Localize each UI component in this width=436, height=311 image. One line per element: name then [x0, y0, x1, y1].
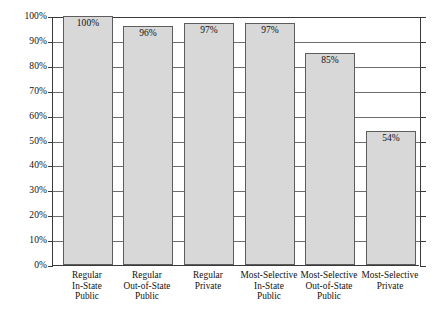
ytick-mark-20 [48, 216, 53, 217]
xtick-line: Public [277, 291, 381, 302]
ytick-mark-10 [48, 241, 53, 242]
xtick-line: Public [95, 291, 199, 302]
ytick-mark-100 [48, 17, 53, 18]
bar-regular-out-of-state-public: 96% [123, 26, 173, 265]
ytick-mark-60 [48, 117, 53, 118]
bar-value-label: 85% [306, 56, 354, 66]
bar-regular-private: 97% [184, 23, 234, 265]
ytick-label-50: 50% [29, 137, 47, 147]
ytick-mark-0 [48, 266, 53, 267]
ytick-label-60: 60% [29, 112, 47, 122]
ytick-label-80: 80% [29, 62, 47, 72]
ytick-mark-30 [48, 191, 53, 192]
right-tick-100 [420, 17, 426, 18]
xtick-line: Most-Selective [338, 270, 436, 281]
bar-value-label: 54% [367, 134, 415, 144]
ytick-mark-50 [48, 142, 53, 143]
right-tick-50 [420, 142, 426, 143]
ytick-label-100: 100% [24, 12, 47, 22]
bar-most-selective-out-of-state-public: 85% [305, 53, 355, 265]
bar-value-label: 96% [124, 29, 172, 39]
ytick-label-30: 30% [29, 187, 47, 197]
ytick-mark-90 [48, 42, 53, 43]
bar-chart: 100% 90% 80% 70% 60% 50% 40% 30% 20% 10%… [0, 0, 436, 311]
right-tick-60 [420, 117, 426, 118]
ytick-label-20: 20% [29, 211, 47, 221]
right-tick-80 [420, 67, 426, 68]
right-tick-20 [420, 216, 426, 217]
right-tick-70 [420, 92, 426, 93]
bar-value-label: 97% [246, 26, 294, 36]
right-tick-30 [420, 191, 426, 192]
plot-area: 100% 90% 80% 70% 60% 50% 40% 30% 20% 10%… [52, 17, 419, 266]
xtick-label-most-selective-private: Most-Selective Private [338, 270, 436, 291]
ytick-label-70: 70% [29, 87, 47, 97]
ytick-mark-70 [48, 92, 53, 93]
ytick-label-10: 10% [29, 236, 47, 246]
xtick-line: Private [338, 281, 436, 292]
ytick-label-40: 40% [29, 162, 47, 172]
ytick-mark-80 [48, 67, 53, 68]
right-tick-10 [420, 241, 426, 242]
right-tick-40 [420, 166, 426, 167]
bar-regular-in-state-public: 100% [63, 16, 113, 265]
bar-value-label: 97% [185, 26, 233, 36]
right-tick-0 [420, 266, 426, 267]
bar-most-selective-in-state-public: 97% [245, 23, 295, 265]
bar-value-label: 100% [64, 19, 112, 29]
right-tick-90 [420, 42, 426, 43]
ytick-mark-40 [48, 166, 53, 167]
ytick-label-90: 90% [29, 37, 47, 47]
bar-most-selective-private: 54% [366, 131, 416, 265]
